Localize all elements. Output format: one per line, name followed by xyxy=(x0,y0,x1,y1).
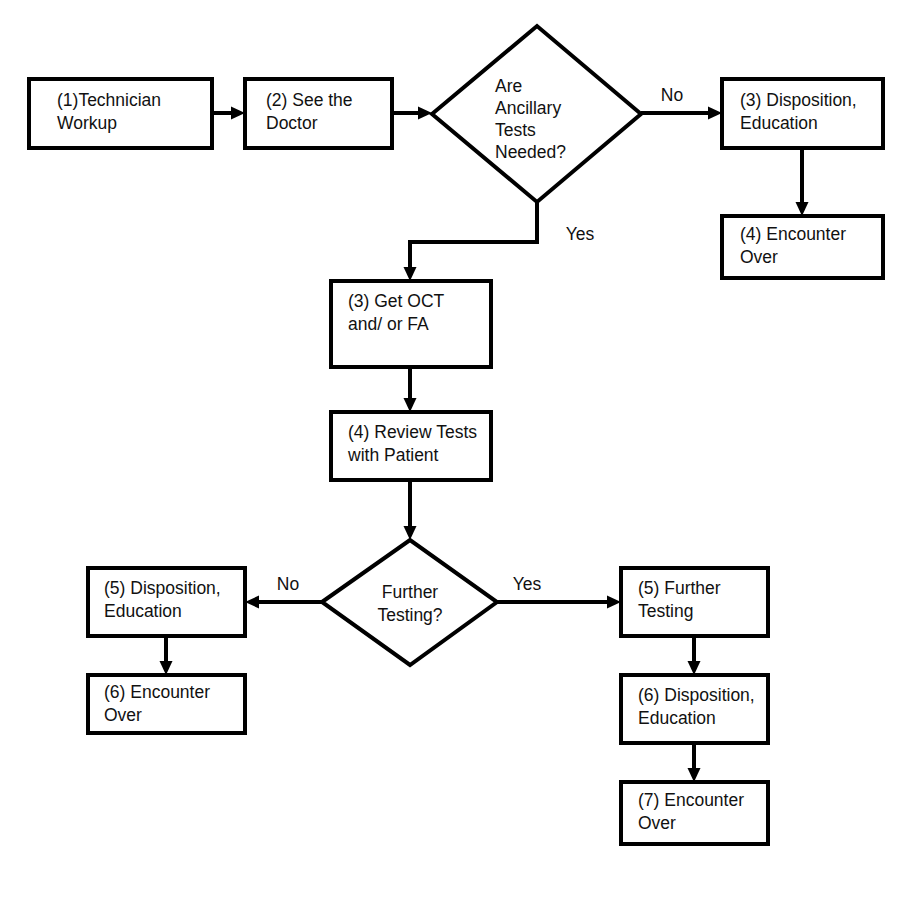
edge-doctor-to-ancillary xyxy=(392,107,432,120)
edge-label-ancillary-yes: Yes xyxy=(566,224,595,244)
node-see-doctor-line1: (2) See the xyxy=(266,90,353,110)
node-disposition-left-line1: (5) Disposition, xyxy=(104,578,221,598)
edge-label-further-no: No xyxy=(277,574,299,594)
node-ancillary-decision-line2: Ancillary xyxy=(495,98,561,118)
node-encounter-over-right[interactable]: (7) Encounter Over xyxy=(621,782,768,844)
node-disposition-right-line2: Education xyxy=(638,708,716,728)
node-technician-workup[interactable]: (1)Technician Workup xyxy=(29,79,212,148)
edge-further-yes xyxy=(497,596,621,609)
edge-ancillary-no xyxy=(641,107,722,120)
edge-further-to-disposition-right xyxy=(688,636,701,675)
node-disposition-top[interactable]: (3) Disposition, Education xyxy=(722,79,883,148)
edge-label-further-yes: Yes xyxy=(513,574,542,594)
node-review-tests-line1: (4) Review Tests xyxy=(348,422,477,442)
node-technician-workup-line1: (1)Technician xyxy=(57,90,161,110)
node-encounter-over-right-line1: (7) Encounter xyxy=(638,790,744,810)
node-further-testing-line1: (5) Further xyxy=(638,578,721,598)
node-disposition-top-line2: Education xyxy=(740,113,818,133)
edge-label-ancillary-no: No xyxy=(661,85,683,105)
edge-oct-to-review xyxy=(404,367,417,412)
node-ancillary-decision-line1: Are xyxy=(495,76,522,96)
edge-workup-to-doctor xyxy=(212,107,245,120)
node-disposition-top-line1: (3) Disposition, xyxy=(740,90,857,110)
node-ancillary-decision-line3: Tests xyxy=(495,120,536,140)
node-get-oct-line2: and/ or FA xyxy=(348,314,429,334)
flowchart-svg: (1)Technician Workup (2) See the Doctor … xyxy=(0,0,908,897)
node-technician-workup-line2: Workup xyxy=(57,113,117,133)
node-get-oct-line1: (3) Get OCT xyxy=(348,291,445,311)
node-encounter-over-left[interactable]: (6) Encounter Over xyxy=(88,675,245,733)
edge-disposition-top-to-encounter-top xyxy=(796,148,809,216)
node-get-oct[interactable]: (3) Get OCT and/ or FA xyxy=(331,281,491,367)
node-further-testing-line2: Testing xyxy=(638,601,693,621)
node-encounter-over-top[interactable]: (4) Encounter Over xyxy=(722,216,883,278)
node-encounter-over-right-line2: Over xyxy=(638,813,676,833)
node-see-doctor[interactable]: (2) See the Doctor xyxy=(245,79,392,148)
edge-disposition-right-to-encounter-right xyxy=(688,743,701,782)
edge-further-no xyxy=(245,596,322,609)
node-disposition-right-line1: (6) Disposition, xyxy=(638,685,755,705)
node-disposition-left[interactable]: (5) Disposition, Education xyxy=(88,568,245,636)
edge-review-to-further-decision xyxy=(404,480,417,540)
node-encounter-over-left-line1: (6) Encounter xyxy=(104,682,210,702)
node-encounter-over-top-line2: Over xyxy=(740,247,778,267)
node-ancillary-decision[interactable]: Are Ancillary Tests Needed? xyxy=(432,26,641,202)
node-further-testing-decision-line2: Testing? xyxy=(377,605,442,625)
node-encounter-over-left-line2: Over xyxy=(104,705,142,725)
node-see-doctor-line2: Doctor xyxy=(266,113,318,133)
node-further-testing-decision-line1: Further xyxy=(382,582,439,602)
node-ancillary-decision-line4: Needed? xyxy=(495,142,566,162)
flowchart-canvas: (1)Technician Workup (2) See the Doctor … xyxy=(0,0,908,897)
node-further-testing[interactable]: (5) Further Testing xyxy=(621,568,768,636)
edge-disposition-left-to-encounter-left xyxy=(160,636,173,675)
node-disposition-left-line2: Education xyxy=(104,601,182,621)
node-disposition-right[interactable]: (6) Disposition, Education xyxy=(621,675,768,743)
node-review-tests[interactable]: (4) Review Tests with Patient xyxy=(331,412,491,480)
node-review-tests-line2: with Patient xyxy=(347,445,439,465)
node-encounter-over-top-line1: (4) Encounter xyxy=(740,224,846,244)
edge-ancillary-yes xyxy=(404,202,538,281)
node-further-testing-decision[interactable]: Further Testing? xyxy=(322,540,497,665)
